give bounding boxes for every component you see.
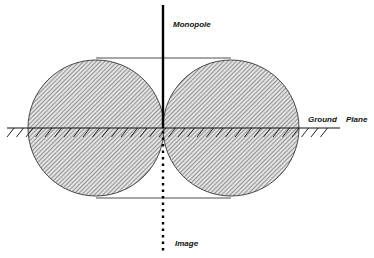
monopole-radiation-diagram: Monopole Ground Plane Image [0, 0, 374, 258]
ground-hatch-mark [302, 128, 309, 137]
image-label: Image [175, 239, 199, 248]
ground-label: Ground [308, 115, 338, 124]
ground-hatch-mark [311, 128, 318, 137]
plane-label: Plane [346, 115, 368, 124]
ground-hatch-mark [17, 128, 24, 137]
ground-hatch-mark [321, 128, 328, 137]
ground-hatch-mark [7, 128, 14, 137]
monopole-label: Monopole [173, 20, 211, 29]
